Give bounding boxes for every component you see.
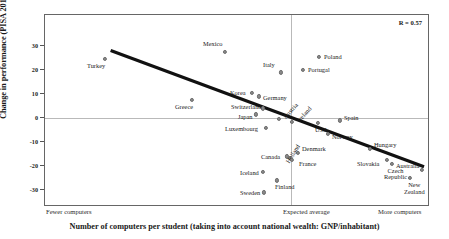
y-axis-tick-label: 0: [35, 114, 38, 121]
data-point-label: Norway: [332, 134, 353, 141]
data-point-label: Canada: [261, 154, 280, 161]
data-point-label: Sweden: [240, 190, 260, 197]
plot-frame: TurkeyMexicoPolandItalyPortugalKoreaGerm…: [44, 14, 429, 206]
data-point-label: Turkey: [87, 63, 105, 70]
data-point-label: Luxembourg: [225, 126, 258, 133]
data-point-label: Italy: [263, 62, 275, 69]
x-axis-title: Number of computers per student (taking …: [0, 222, 449, 231]
y-axis-tick-label: 30: [32, 42, 38, 49]
data-point-label: Finland: [275, 184, 295, 191]
data-point-label: CzechRepublic: [384, 168, 407, 181]
data-point-label: Denmark: [302, 146, 326, 153]
y-axis-title: Change in performance (PISA 2012–PISA 20…: [0, 0, 8, 119]
data-point-label: Slovakia: [357, 161, 379, 168]
data-point-label: Hungary: [374, 142, 396, 149]
y-axis-tick-label: 20: [32, 66, 38, 73]
y-axis-tick-label: -10: [30, 138, 38, 145]
x-axis-caption-fewer-computers: Fewer computers: [46, 208, 92, 215]
plot-area: TurkeyMexicoPolandItalyPortugalKoreaGerm…: [45, 15, 428, 205]
data-point-label: France: [299, 161, 316, 168]
data-point-label: Portugal: [308, 67, 330, 74]
data-point-label: Greece: [175, 104, 193, 111]
y-axis-tick-label: 10: [32, 90, 38, 97]
data-point-label: NewZealand: [404, 182, 425, 195]
data-point-label: Australia: [396, 163, 419, 170]
x-axis-caption-expected-average: Expected average: [283, 208, 330, 215]
x-axis-caption-more-computers: More computers: [378, 208, 421, 215]
data-point-label: Spain: [344, 115, 359, 122]
data-point-label: Korea: [230, 90, 246, 97]
data-point-label: Japan: [238, 114, 253, 121]
y-axis-tick-label: -30: [30, 186, 38, 193]
y-axis-tick-label: -20: [30, 162, 38, 169]
data-point-label: Germany: [263, 95, 287, 102]
data-point-label: Switzerland: [231, 104, 262, 111]
data-point-label: Poland: [324, 54, 342, 61]
data-point-label: Iceland: [240, 170, 259, 177]
scatter-chart-figure: Change in performance (PISA 2012–PISA 20…: [0, 0, 449, 239]
correlation-annotation: R = 0.57: [399, 19, 422, 26]
data-point-label: Mexico: [203, 41, 223, 48]
